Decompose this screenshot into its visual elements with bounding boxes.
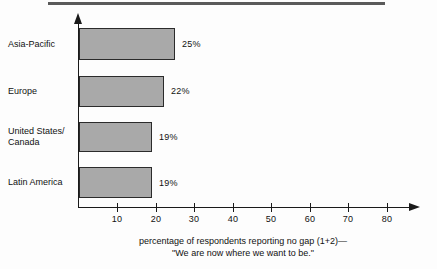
x-tick-mark	[271, 203, 272, 212]
value-label-latin-america: 19%	[159, 178, 178, 188]
x-tick-mark	[310, 203, 311, 212]
x-tick-mark	[348, 203, 349, 212]
x-axis-caption: percentage of respondents reporting no g…	[68, 236, 418, 259]
x-tick-mark	[194, 203, 195, 212]
x-tick-mark	[233, 203, 234, 212]
x-tick-label: 10	[102, 214, 132, 224]
y-axis-arrow-icon	[74, 13, 82, 24]
x-tick-mark	[387, 203, 388, 212]
bar-latin-america[interactable]	[79, 167, 152, 198]
category-label-europe: Europe	[8, 86, 76, 97]
category-label-line2: Canada	[8, 137, 76, 148]
x-axis-line	[78, 207, 411, 208]
x-tick-mark	[117, 203, 118, 212]
x-tick-label: 20	[141, 214, 171, 224]
x-tick-label: 40	[218, 214, 248, 224]
x-tick-label: 60	[295, 214, 325, 224]
plot-area: 10 20 30 40 50 60 70 80 Asia-Pacific Eur…	[0, 0, 437, 269]
value-label-united-states-canada: 19%	[159, 132, 178, 142]
bar-united-states-canada[interactable]	[79, 122, 152, 152]
x-axis-arrow-icon	[409, 203, 420, 211]
x-tick-label: 70	[333, 214, 363, 224]
chart-figure: 10 20 30 40 50 60 70 80 Asia-Pacific Eur…	[0, 0, 437, 269]
category-label-line1: United States/	[8, 126, 76, 137]
category-label-latin-america: Latin America	[8, 177, 76, 188]
x-tick-label: 80	[372, 214, 402, 224]
category-label-asia-pacific: Asia-Pacific	[8, 39, 76, 50]
category-label-united-states-canada: United States/ Canada	[8, 126, 76, 148]
x-tick-mark	[156, 203, 157, 212]
caption-line-2: "We are now where we want to be."	[68, 248, 418, 260]
value-label-asia-pacific: 25%	[182, 39, 201, 49]
category-label-line1: Asia-Pacific	[8, 39, 55, 49]
bar-asia-pacific[interactable]	[79, 28, 175, 60]
x-tick-label: 50	[256, 214, 286, 224]
caption-line-1: percentage of respondents reporting no g…	[68, 236, 418, 248]
value-label-europe: 22%	[171, 86, 190, 96]
category-label-line1: Latin America	[8, 177, 63, 187]
bar-europe[interactable]	[79, 76, 164, 107]
x-tick-label: 30	[179, 214, 209, 224]
category-label-line1: Europe	[8, 86, 37, 96]
